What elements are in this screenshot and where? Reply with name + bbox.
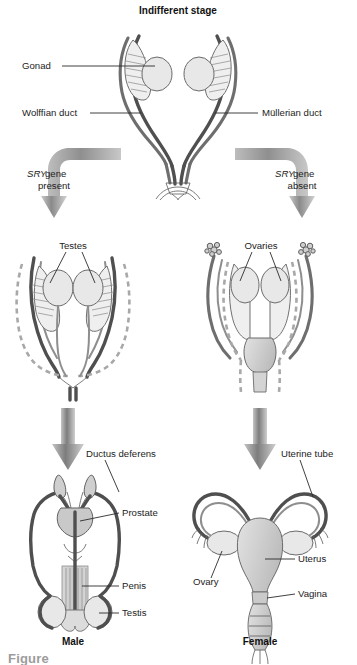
uterus-shape — [237, 518, 282, 592]
label-uterine-tube: Uterine tube — [281, 448, 333, 459]
leader-vagina — [267, 594, 295, 598]
figure-caption-partial: Figure — [8, 652, 148, 665]
label-prostate: Prostate — [122, 507, 158, 518]
leader-uterine-tube — [300, 460, 313, 497]
caption-male: Male — [62, 636, 85, 647]
sry-gene-left-italic: SRY — [27, 168, 47, 179]
label-uterus: Uterus — [298, 553, 326, 564]
label-gonad: Gonad — [22, 60, 51, 71]
sry-state-right: absent — [288, 180, 317, 191]
label-ovaries: Ovaries — [244, 240, 277, 251]
figure-title: Indifferent stage — [139, 5, 217, 16]
ovary-left-shape — [207, 531, 241, 555]
adult-male-illustration — [31, 475, 119, 631]
label-testis: Testis — [122, 607, 147, 618]
label-mullerian-duct: Müllerian duct — [262, 107, 322, 118]
sry-gene-right-word: gene — [293, 168, 314, 179]
ovary-right-shape — [279, 531, 313, 555]
figure-root: Indifferent stage — [0, 0, 357, 665]
leader-ductus-deferens — [105, 460, 119, 492]
maturation-arrow-female — [244, 408, 276, 470]
sry-state-left: present — [38, 180, 70, 191]
label-ductus-deferens: Ductus deferens — [86, 448, 156, 459]
ovaries-stage-illustration — [205, 242, 315, 392]
sry-gene-right-italic: SRY — [275, 168, 295, 179]
indifferent-stage-illustration — [120, 36, 235, 200]
gonad-right — [184, 40, 231, 100]
caption-female: Female — [243, 636, 278, 647]
testes-stage-illustration — [17, 258, 130, 400]
gonad-left — [125, 40, 172, 100]
label-penis: Penis — [122, 580, 146, 591]
sry-gene-left-word: gene — [45, 168, 66, 179]
label-testes: Testes — [59, 240, 87, 251]
maturation-arrow-male — [52, 408, 84, 470]
label-wolffian-duct: Wolffian duct — [22, 107, 77, 118]
fimbriae-left — [205, 242, 222, 256]
label-ovary: Ovary — [193, 576, 219, 587]
fimbriae-right — [299, 242, 316, 256]
figure-caption-text: Figure — [8, 652, 148, 665]
sexual-differentiation-diagram: Indifferent stage — [0, 0, 357, 665]
leader-ovary — [211, 551, 222, 578]
label-vagina: Vagina — [298, 588, 328, 599]
